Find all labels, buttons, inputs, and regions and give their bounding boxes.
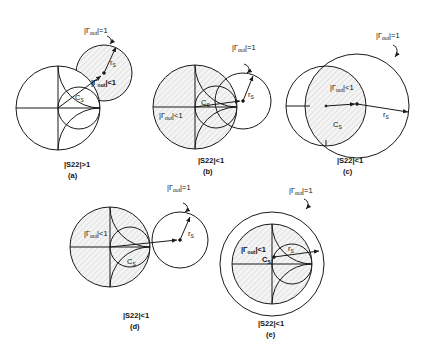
tag-a: (a) bbox=[68, 171, 78, 180]
reactance-arc-bottom bbox=[272, 264, 352, 344]
label-unit-c: |Γout|=1 bbox=[376, 31, 400, 41]
tag-d: (d) bbox=[130, 322, 140, 331]
condition-e: |S22|<1 bbox=[258, 319, 284, 328]
pointer-arrow bbox=[183, 203, 187, 212]
tag-c: (c) bbox=[343, 167, 353, 176]
label-unit-e: |Γout|=1 bbox=[289, 186, 313, 196]
tag-b: (b) bbox=[203, 167, 213, 176]
reactance-arc-bottom bbox=[110, 247, 190, 327]
reactance-arc-top bbox=[195, 23, 279, 107]
label-unit-a: |Γout|=1 bbox=[84, 26, 108, 36]
pointer-arrow bbox=[107, 36, 111, 44]
tag-e: (e) bbox=[266, 330, 276, 339]
reactance-arc-top bbox=[110, 167, 190, 247]
label-unit-b: |Γout|=1 bbox=[232, 43, 256, 53]
radius-label-d: rS bbox=[188, 229, 195, 239]
reactance-arc-bottom bbox=[195, 107, 279, 191]
condition-d: |S22|<1 bbox=[123, 311, 149, 320]
pointer-arrow bbox=[304, 199, 308, 209]
condition-b: |S22|<1 bbox=[198, 156, 224, 165]
pointer-arrow bbox=[244, 64, 249, 73]
condition-a: |S22|>1 bbox=[64, 160, 90, 169]
panel-b bbox=[153, 23, 279, 191]
label-unit-d: |Γout|=1 bbox=[167, 183, 191, 193]
pointer-arrow bbox=[393, 45, 397, 57]
radius-label-c: rS bbox=[383, 110, 390, 120]
condition-c: |S22|<1 bbox=[337, 156, 363, 165]
stability-circles-figure: |Γout|=1 rS |Γout|<1 CS |S22|>1 (a) |Γou… bbox=[0, 0, 425, 348]
radius-label-b: rS bbox=[248, 90, 255, 100]
panel-c bbox=[286, 45, 409, 158]
panel-e bbox=[220, 184, 352, 344]
